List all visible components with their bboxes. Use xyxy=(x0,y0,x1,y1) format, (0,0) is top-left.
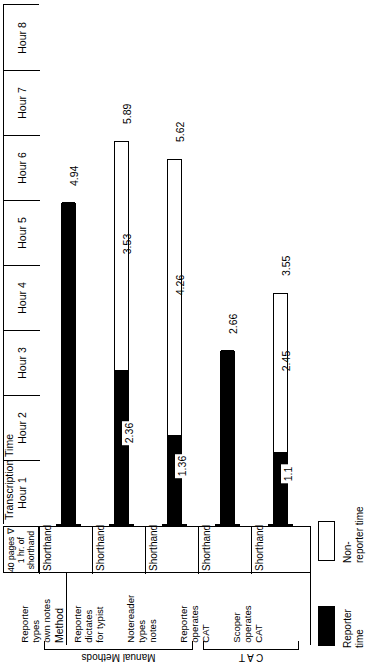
method-item-line: for typist xyxy=(95,606,106,643)
bar-total xyxy=(114,141,129,524)
bar-group: 5.892.363.53 xyxy=(114,4,129,524)
method-item-label: ScoperoperatesCAT xyxy=(232,606,265,643)
axis-hour-label: Hour 7 xyxy=(16,87,28,119)
shorthand-cell: Shorthand xyxy=(39,527,92,574)
bar-segment-reporter-time xyxy=(274,452,287,524)
axis-hour-label: Hour 5 xyxy=(16,217,28,249)
axis-hour-cell-7: Hour 7 xyxy=(4,70,40,135)
shorthand-cell-label: Shorthand xyxy=(148,525,159,571)
pages-per-hour-cell: 40 pages ∇ 1 hr. of shorthand xyxy=(3,526,39,573)
bar-group: 4.94 xyxy=(61,4,76,524)
axis-hour-label: Hour 3 xyxy=(16,347,28,379)
legend-label-line: time xyxy=(354,609,366,648)
group-label: C A T xyxy=(203,652,299,663)
axis-hour-label: Hour 6 xyxy=(16,152,28,184)
axis-hour-label: Hour 8 xyxy=(16,22,28,54)
bar-reporter-value-label: 1.36 xyxy=(175,454,189,478)
bar-reporter-value-label: 1.1 xyxy=(281,465,295,484)
method-block: Method Reportertypesown notesReporterdic… xyxy=(39,573,311,645)
axis-hour-label: Hour 1 xyxy=(16,477,28,509)
chart-figure: Hour 1Hour 2Hour 3Hour 4Hour 5Hour 6Hour… xyxy=(0,0,372,667)
legend-label-line: reporter time xyxy=(354,506,366,563)
method-item-label: Reportertypesown notes xyxy=(20,599,53,643)
legend-label-line: Reporter xyxy=(342,609,354,648)
bar-segment-reporter-time xyxy=(168,435,181,523)
method-item-label: ReporteroperatesCAT xyxy=(179,606,212,643)
bar-total-value-label: 5.89 xyxy=(121,104,133,124)
group-bracket xyxy=(44,641,193,650)
shorthand-cell: Shorthand xyxy=(92,527,145,574)
method-item-line: notes xyxy=(148,595,159,643)
bar-total-value-label: 3.55 xyxy=(280,256,292,276)
legend-label-line: Non- xyxy=(342,506,354,563)
bar-non-reporter-value-label: 3.53 xyxy=(121,234,133,254)
bar-total xyxy=(273,293,288,524)
shorthand-cell: Shorthand xyxy=(251,527,304,574)
bar-total xyxy=(220,351,235,524)
shorthand-cell-label: Shorthand xyxy=(95,525,106,571)
axis-hour-cell-5: Hour 5 xyxy=(4,200,40,265)
axis-hour-label: Hour 2 xyxy=(16,412,28,444)
method-item-line: own notes xyxy=(42,599,53,643)
axis-hour-cell-4: Hour 4 xyxy=(4,265,40,330)
bar-total-value-label: 2.66 xyxy=(227,314,239,334)
group-label: Manual Methods xyxy=(44,652,193,663)
bar-group: 3.551.12.45 xyxy=(273,4,288,524)
method-item-line: CAT xyxy=(201,606,212,643)
shorthand-cell-label: Shorthand xyxy=(201,525,212,571)
shorthand-row: ShorthandShorthandShorthandShorthandShor… xyxy=(39,526,311,573)
shorthand-cell: Shorthand xyxy=(145,527,198,574)
bar-group: 2.66 xyxy=(220,4,235,524)
bar-total-value-label: 5.62 xyxy=(174,121,186,141)
bar-segment-reporter-time xyxy=(62,202,75,523)
legend-swatch-reporter-time xyxy=(318,606,335,646)
legend-swatch-non-reporter-time xyxy=(318,521,335,561)
pages-per-hour-text: 40 pages ∇ 1 hr. of shorthand xyxy=(7,528,37,572)
bar-non-reporter-value-label: 2.45 xyxy=(280,351,292,371)
bar-total xyxy=(61,203,76,524)
bar-non-reporter-value-label: 4.26 xyxy=(174,275,186,295)
axis-hour-cell-6: Hour 6 xyxy=(4,135,40,200)
bar-segment-reporter-time xyxy=(115,370,128,523)
method-item-label: Reporterdictatesfor typist xyxy=(73,606,106,643)
bar-segment-reporter-time xyxy=(221,350,234,523)
bar-group: 5.621.364.26 xyxy=(167,4,182,524)
plot-area: 4.945.892.363.535.621.364.262.663.551.12… xyxy=(39,4,311,524)
shorthand-cell-label: Shorthand xyxy=(42,525,53,571)
method-right-edge xyxy=(310,573,311,645)
group-bracket xyxy=(203,641,299,650)
axis-title-text: Transcription Time xyxy=(3,434,15,520)
bar-total-value-label: 4.94 xyxy=(68,165,80,185)
pages-line-3: shorthand xyxy=(27,528,37,572)
bar-reporter-value-label: 2.36 xyxy=(122,421,136,445)
legend-label-reporter-time: Reportertime xyxy=(342,609,365,648)
shorthand-cell-label: Shorthand xyxy=(254,525,265,571)
method-item-line: CAT xyxy=(254,606,265,643)
axis-hour-cell-8: Hour 8 xyxy=(4,5,40,70)
method-item-label: Notereadertypesnotes xyxy=(126,595,159,643)
axis-hour-label: Hour 4 xyxy=(16,282,28,314)
method-item: ScoperoperatesCAT xyxy=(251,573,304,645)
legend-label-non-reporter-time: Non-reporter time xyxy=(342,506,365,563)
axis-title-transcription-time: Transcription Time xyxy=(2,380,16,522)
shorthand-cell: Shorthand xyxy=(198,527,251,574)
